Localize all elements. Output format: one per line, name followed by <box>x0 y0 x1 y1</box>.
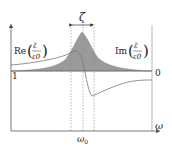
re-label-prefix: Re <box>14 46 26 56</box>
omega0-label: ω0 <box>77 134 88 145</box>
left-tick-1: 1 <box>12 71 18 81</box>
right-tick-0: 0 <box>155 68 161 78</box>
re-fraction-den: ε0 <box>32 53 41 61</box>
im-fraction-num: ε̃ <box>134 42 138 50</box>
zeta-label: ζ <box>79 11 86 24</box>
im-label-paren-close: ) <box>143 42 149 60</box>
diagram: ζ Re ( ε̃ ε0 ) Im ( ε̃ ε0 ) 1 0 ω0 ω <box>0 0 172 149</box>
re-fraction-num: ε̃ <box>33 42 37 50</box>
re-label-paren-close: ) <box>42 42 48 60</box>
im-label-prefix: Im <box>115 46 128 56</box>
omega-axis-label: ω <box>155 120 163 131</box>
im-fraction-den: ε0 <box>133 53 142 61</box>
diagram-svg: ζ Re ( ε̃ ε0 ) Im ( ε̃ ε0 ) 1 0 ω0 ω <box>0 0 172 149</box>
